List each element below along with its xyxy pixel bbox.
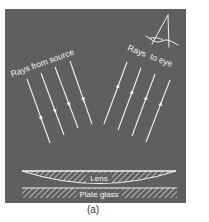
label-plate-glass: Plate glass	[79, 190, 118, 199]
diagram-canvas: Rays from source Rays to eye Lens Plate …	[0, 0, 209, 222]
newtons-rings-figure: Rays from source Rays to eye Lens Plate …	[0, 0, 209, 222]
label-lens: Lens	[90, 174, 107, 183]
figure-caption: (a)	[0, 204, 186, 215]
